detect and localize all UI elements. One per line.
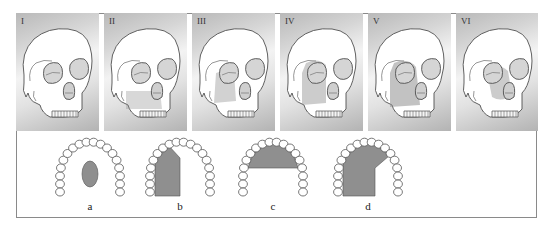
- skull-illustration: [104, 13, 187, 131]
- skull-illustration: [16, 13, 99, 131]
- dental-arch-a: [53, 136, 127, 204]
- skull-illustration: [456, 13, 538, 131]
- panel-label: IV: [285, 16, 295, 26]
- skull-panel-vi: VI: [456, 13, 538, 131]
- dental-arch-d: [331, 136, 405, 204]
- panel-label: VI: [461, 16, 471, 26]
- arch-label: c: [263, 200, 283, 212]
- panel-label: V: [373, 16, 380, 26]
- dental-arch-c: [236, 136, 310, 204]
- arch-label: d: [358, 200, 378, 212]
- panel-label: II: [109, 16, 115, 26]
- dental-arch-b: [143, 136, 217, 204]
- skull-illustration: [192, 13, 275, 131]
- skull-panel-iii: III: [192, 13, 275, 131]
- panel-label: I: [21, 16, 24, 26]
- dental-arch-illustration: [331, 136, 405, 200]
- panel-label: III: [197, 16, 206, 26]
- dental-arch-illustration: [236, 136, 310, 200]
- skull-panel-iv: IV: [280, 13, 363, 131]
- skull-panel-i: I: [16, 13, 99, 131]
- skull-panel-ii: II: [104, 13, 187, 131]
- dental-arch-illustration: [53, 136, 127, 200]
- arch-label: a: [80, 200, 100, 212]
- arch-label: b: [170, 200, 190, 212]
- skull-illustration: [280, 13, 363, 131]
- skull-illustration: [368, 13, 451, 131]
- dental-arch-illustration: [143, 136, 217, 200]
- skull-panel-v: V: [368, 13, 451, 131]
